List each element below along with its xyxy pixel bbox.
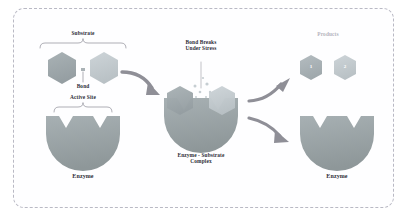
label-bond: Bond bbox=[63, 83, 103, 89]
substrate-hexagon-right bbox=[90, 52, 118, 84]
label-enzyme-left: Enzyme bbox=[53, 173, 113, 180]
label-products: Products bbox=[298, 31, 358, 37]
label-bond-breaks-under-stress: Bond Breaks Under Stress bbox=[171, 39, 231, 52]
label-active-site: Active Site bbox=[53, 94, 113, 100]
bond-break-particles bbox=[190, 77, 211, 98]
label-enzyme-right: Enzyme bbox=[307, 173, 367, 180]
substrate-brace bbox=[40, 39, 126, 48]
active-site-brace bbox=[54, 103, 112, 112]
enzyme-body-right bbox=[300, 116, 374, 171]
enzyme-body-left bbox=[46, 116, 120, 171]
substrate-hexagon-left bbox=[48, 52, 76, 84]
product-marker-1: 1 bbox=[301, 64, 321, 69]
arrow-complex-to-enzyme bbox=[249, 118, 289, 143]
arrow-substrate-to-complex bbox=[122, 72, 160, 95]
label-substrate: Substrate bbox=[48, 30, 118, 36]
label-enzyme-substrate-complex: Enzyme - Substrate Complex bbox=[156, 152, 246, 165]
enzyme-reaction-diagram: Substrate Bond Active Site Enzyme Bond B… bbox=[0, 0, 407, 216]
bond-connector bbox=[81, 68, 85, 82]
arrow-complex-to-products bbox=[249, 78, 290, 101]
product-marker-2: 2 bbox=[335, 64, 355, 69]
